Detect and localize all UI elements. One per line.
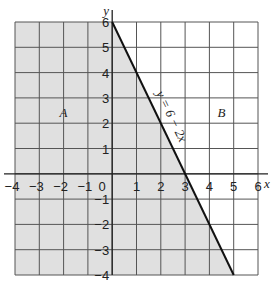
x-tick-label: 5 (230, 179, 237, 194)
y-tick-label: 1 (102, 142, 109, 157)
y-tick-label: −2 (94, 217, 109, 232)
x-tick-label: 6 (254, 179, 261, 194)
region-b-label: B (218, 105, 226, 120)
y-tick-label: 3 (102, 91, 109, 106)
x-tick-label: −1 (77, 179, 92, 194)
x-tick-label: −4 (5, 179, 20, 194)
x-tick-label: 4 (206, 179, 213, 194)
y-tick-label: −4 (94, 268, 109, 283)
x-tick-label: 3 (181, 179, 188, 194)
y-axis-label: y (101, 3, 109, 18)
y-tick-label: 2 (102, 116, 109, 131)
y-tick-label: 4 (102, 66, 109, 81)
y-tick-label: −1 (94, 192, 109, 207)
x-tick-label: −2 (53, 179, 68, 194)
y-tick-label: 5 (102, 40, 109, 55)
x-tick-label: 2 (157, 179, 164, 194)
inequality-graph: −4−3−2−10123456−4−3−2−1123456 x y A B y … (0, 0, 277, 296)
x-tick-label: −3 (29, 179, 44, 194)
region-a-label: A (59, 105, 68, 120)
y-tick-label: −3 (94, 243, 109, 258)
x-tick-label: 1 (133, 179, 140, 194)
x-axis-label: x (263, 176, 270, 191)
